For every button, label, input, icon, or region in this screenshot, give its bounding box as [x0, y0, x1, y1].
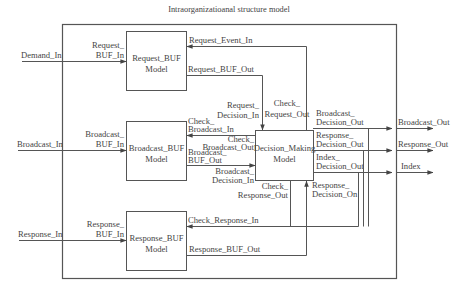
response-buf-in-label-1: Response_ [87, 219, 125, 229]
request-event-in-label: Request_Event_In [189, 35, 253, 45]
broadcast-buf-label-2: Model [145, 154, 168, 164]
check-broadcast-in-label-2: Broadcast_In [188, 124, 235, 134]
broadcast-decision-in-label-2: Decision_In [212, 175, 255, 185]
diagram-title: Intraorganizatioanal structure model [168, 5, 290, 14]
broadcast-buf-out-label-2: BUF_Out [188, 155, 223, 165]
request-buf-label-2: Model [145, 64, 168, 74]
request-buf-label-1: Request_BUF [132, 53, 181, 63]
check-request-out-label-2: Request_Out [265, 109, 310, 119]
broadcast-decision-out-label-2: Decision_Out [316, 117, 364, 127]
broadcast-buf-in-label-1: Broadcast_ [85, 129, 124, 139]
check-response-in-label: Check_Response_In [188, 215, 259, 225]
broadcast-buf-block[interactable]: Broadcast_BUF Model [127, 122, 187, 181]
request-buf-out-label: Request_BUF_Out [188, 64, 255, 74]
index-decision-out-label-2: Decision_Out [316, 161, 364, 171]
request-buf-in-label-1: Request_ [92, 40, 125, 50]
response-out-label: Response_Out [398, 139, 449, 149]
decision-making-label-2: Model [273, 154, 296, 164]
response-decision-on-label-2: Decision_On [312, 189, 358, 199]
response-buf-in-label-2: BUF_In [96, 229, 125, 239]
response-buf-block[interactable]: Response_BUF Model [127, 212, 187, 271]
request-buf-in-label-2: BUF_In [96, 50, 125, 60]
demand-in-label: Demand_In [21, 50, 62, 60]
decision-making-block[interactable]: Decision_Making Model [254, 131, 316, 181]
index-out-label: Index [401, 161, 421, 171]
response-in-label: Response_In [18, 229, 63, 239]
request-decision-in-label-1: Request_ [227, 100, 260, 110]
request-decision-in-label-2: Decision_In [217, 110, 260, 120]
broadcast-out-label: Broadcast_Out [398, 117, 450, 127]
structure-diagram: Intraorganizatioanal structure model Req… [0, 0, 462, 290]
check-response-out-label-2: Response_Out [238, 190, 289, 200]
response-buf-out-label: Response_BUF_Out [189, 244, 261, 254]
broadcast-buf-in-label-2: BUF_In [96, 139, 125, 149]
response-decision-out-label-2: Decision_Out [316, 139, 364, 149]
check-request-out-label-1: Check_ [274, 98, 301, 108]
response-buf-label-2: Model [145, 244, 168, 254]
broadcast-buf-label-1: Broadcast_BUF [129, 143, 185, 153]
response-buf-label-1: Response_BUF [130, 233, 184, 243]
broadcast-in-label: Broadcast_In [17, 139, 64, 149]
request-buf-block[interactable]: Request_BUF Model [127, 32, 187, 91]
decision-making-label-1: Decision_Making [254, 143, 316, 153]
